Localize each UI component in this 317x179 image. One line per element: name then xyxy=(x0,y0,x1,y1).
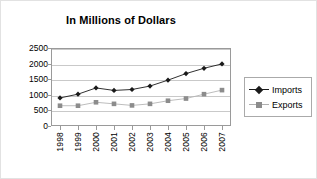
data-point-exports[interactable] xyxy=(130,103,135,108)
chart-figure: In Millions of Dollars 05001000150020002… xyxy=(0,0,317,179)
y-tick-label: 1500 xyxy=(15,74,48,84)
x-tick-mark xyxy=(60,126,61,130)
data-point-exports[interactable] xyxy=(76,103,81,108)
x-tick-label: 1999 xyxy=(73,132,83,152)
imports-marker-icon xyxy=(249,84,269,95)
x-tick-mark xyxy=(150,126,151,130)
legend-item-imports[interactable]: Imports xyxy=(249,82,308,97)
x-tick-label: 2005 xyxy=(181,132,191,152)
y-tick-mark xyxy=(47,95,51,96)
y-tick-mark xyxy=(47,64,51,65)
x-tick-mark xyxy=(186,126,187,130)
data-point-exports[interactable] xyxy=(148,102,153,107)
data-point-imports[interactable] xyxy=(57,95,62,100)
x-tick-mark xyxy=(222,126,223,130)
exports-marker-icon xyxy=(249,99,269,110)
data-point-imports[interactable] xyxy=(165,78,170,83)
x-tick-label: 1998 xyxy=(55,132,65,152)
y-axis: 05001000150020002500 xyxy=(15,42,48,132)
x-tick-label: 2007 xyxy=(217,132,227,152)
y-tick-label: 0 xyxy=(15,121,48,131)
x-tick-label: 2003 xyxy=(145,132,155,152)
legend-label-exports: Exports xyxy=(269,100,303,110)
x-tick-mark xyxy=(96,126,97,130)
legend-item-exports[interactable]: Exports xyxy=(249,97,308,112)
chart-legend: Imports Exports xyxy=(244,77,312,117)
y-tick-label: 1000 xyxy=(15,90,48,100)
series-line-imports xyxy=(60,64,222,98)
y-tick-label: 2000 xyxy=(15,59,48,69)
data-point-imports[interactable] xyxy=(201,66,206,71)
data-point-imports[interactable] xyxy=(129,87,134,92)
y-tick-mark xyxy=(47,48,51,49)
data-point-imports[interactable] xyxy=(111,88,116,93)
data-point-exports[interactable] xyxy=(58,103,63,108)
y-tick-label: 500 xyxy=(15,105,48,115)
x-tick-mark xyxy=(132,126,133,130)
legend-label-imports: Imports xyxy=(269,85,302,95)
data-point-imports[interactable] xyxy=(147,83,152,88)
x-tick-label: 2004 xyxy=(163,132,173,152)
y-tick-mark xyxy=(47,110,51,111)
y-tick-label: 2500 xyxy=(15,43,48,53)
data-point-imports[interactable] xyxy=(93,85,98,90)
y-tick-mark xyxy=(47,79,51,80)
x-tick-label: 2006 xyxy=(199,132,209,152)
data-point-exports[interactable] xyxy=(202,92,207,97)
data-point-imports[interactable] xyxy=(183,71,188,76)
x-tick-label: 2000 xyxy=(91,132,101,152)
data-point-exports[interactable] xyxy=(112,102,117,107)
series-layer xyxy=(51,48,231,126)
x-tick-mark xyxy=(204,126,205,130)
x-tick-label: 2001 xyxy=(109,132,119,152)
chart-title: In Millions of Dollars xyxy=(1,14,241,26)
data-point-exports[interactable] xyxy=(220,88,225,93)
x-tick-label: 2002 xyxy=(127,132,137,152)
y-tick-mark xyxy=(47,126,51,127)
data-point-exports[interactable] xyxy=(166,98,171,103)
x-tick-mark xyxy=(114,126,115,130)
data-point-exports[interactable] xyxy=(184,96,189,101)
x-tick-mark xyxy=(168,126,169,130)
data-point-imports[interactable] xyxy=(75,92,80,97)
x-tick-mark xyxy=(78,126,79,130)
data-point-imports[interactable] xyxy=(219,61,224,66)
data-point-exports[interactable] xyxy=(94,100,99,105)
